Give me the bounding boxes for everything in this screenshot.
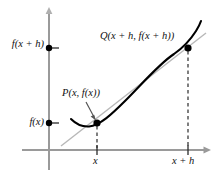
x-axis-label-right: x + h: [172, 156, 194, 167]
x-axis-label-left: x: [93, 156, 98, 167]
y-value-dot-lower: [46, 120, 52, 126]
arrow-pointer-icon: [91, 115, 96, 121]
point-q: [184, 44, 191, 51]
point-p-label: P(x, f(x)): [62, 88, 100, 99]
y-axis-label-upper: f(x + h): [12, 39, 44, 50]
point-q-label: Q(x + h, f(x + h)): [100, 31, 174, 42]
point-p: [93, 119, 100, 126]
derivative-secant-figure: f(x + h) f(x) x x + h P(x, f(x)) Q(x + h…: [0, 0, 218, 176]
arrow-right-icon: [204, 146, 212, 153]
figure-canvas: [0, 0, 218, 176]
p-callout-line: [86, 102, 94, 117]
y-value-dot-upper: [46, 45, 52, 51]
y-axis-label-lower: f(x): [29, 117, 44, 128]
arrow-up-icon: [46, 7, 53, 14]
